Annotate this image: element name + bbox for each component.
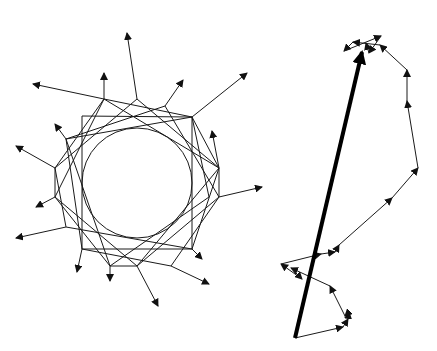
arrow-icon	[55, 124, 66, 139]
arrow-icon	[127, 33, 137, 99]
step-arrow-icon	[330, 286, 345, 316]
arrow-icon	[192, 249, 202, 259]
step-arrow-icon	[321, 252, 335, 254]
arrow-icon	[219, 187, 262, 197]
step-arrow-icon	[407, 101, 418, 168]
star-polygon	[55, 99, 209, 266]
arrow-icon	[165, 80, 183, 106]
star-vector-figure	[16, 33, 262, 306]
step-arrow-icon	[295, 327, 343, 338]
resultant-arrow-icon	[295, 52, 362, 338]
arrow-icon	[16, 227, 66, 238]
arrow-icon	[171, 266, 209, 284]
arrow-icon	[36, 197, 55, 207]
random-walk-vector-sum	[281, 36, 418, 338]
step-arrow-icon	[392, 168, 418, 198]
step-arrow-icon	[335, 245, 339, 252]
diagram-svg	[0, 0, 437, 351]
arrow-icon	[16, 146, 55, 168]
step-arrow-icon	[343, 319, 348, 327]
star-polygon	[82, 116, 192, 249]
arrow-icon	[33, 84, 104, 99]
arrow-icon	[77, 249, 82, 272]
inner-circle	[82, 128, 192, 238]
step-arrow-icon	[380, 45, 407, 70]
figure-canvas	[0, 0, 437, 351]
step-arrow-icon	[366, 43, 369, 53]
arrow-icon	[137, 266, 158, 306]
step-arrow-icon	[339, 198, 392, 245]
arrow-icon	[192, 73, 247, 117]
